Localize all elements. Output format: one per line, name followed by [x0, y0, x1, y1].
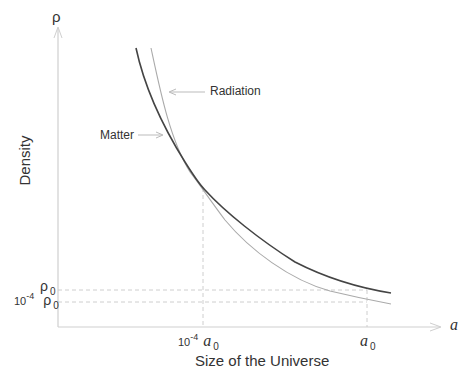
radiation-curve — [151, 48, 391, 304]
radiation-label: Radiation — [210, 84, 261, 98]
subscript: 0 — [213, 341, 219, 352]
exponent: -4 — [190, 332, 198, 342]
plot-canvas — [0, 0, 470, 377]
a-symbol: a — [203, 332, 211, 349]
x-tick-a0-e4: 10-4 a0 — [178, 332, 219, 350]
subscript: 0 — [53, 300, 59, 311]
ten: 10 — [14, 295, 26, 307]
y-axis-title: Density — [16, 131, 33, 191]
x-axis-symbol: a — [450, 316, 458, 334]
y-axis-symbol: ρ — [52, 8, 61, 25]
exponent: -4 — [26, 291, 34, 301]
x-axis-title: Size of the Universe — [195, 352, 329, 369]
rho-symbol: ρ — [43, 292, 51, 308]
x-tick-a0: a0 — [360, 332, 376, 350]
ten: 10 — [178, 336, 190, 348]
density-vs-size-diagram: ρ a Density Size of the Universe Radiati… — [0, 0, 470, 377]
matter-label: Matter — [100, 128, 134, 142]
y-tick-rho0-e4: 10-4 ρ0 — [14, 292, 59, 308]
a-symbol: a — [360, 332, 368, 349]
subscript: 0 — [370, 341, 376, 352]
guide-lines — [58, 188, 367, 327]
